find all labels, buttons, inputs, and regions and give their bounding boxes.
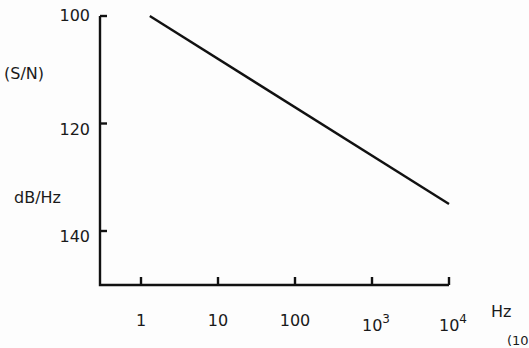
cut-off-annotation: (10 [507,334,529,347]
x-tick-label: 104 [439,313,467,334]
x-tick-label: 100 [280,313,311,329]
axes [100,16,449,285]
data-series [150,16,449,204]
series-line [150,16,449,204]
y-tick-label: 120 [30,122,90,138]
x-axis-label: Hz [491,304,511,320]
x-tick-label: 1 [136,313,146,329]
x-tick-label: 10 [208,313,228,329]
y-axis-label-line2: dB/Hz [14,190,61,206]
y-tick-label: 140 [30,229,90,245]
x-tick-label: 103 [362,313,390,334]
y-axis-label-line1: (S/N) [4,66,44,82]
y-tick-label: 100 [30,8,90,24]
